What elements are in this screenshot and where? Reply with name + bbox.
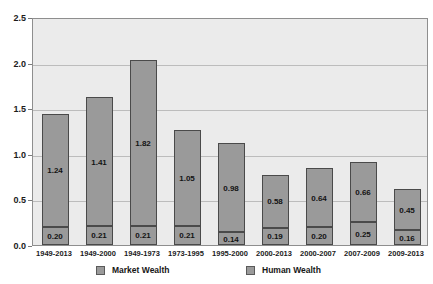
bar-segment-market-wealth: 0.19 [262, 228, 289, 245]
bar-segment-human-wealth: 0.45 [394, 189, 421, 230]
bar-group: 0.140.98 [218, 143, 245, 245]
bar-segment-human-wealth: 0.66 [350, 162, 377, 222]
bar-segment-human-wealth: 1.82 [130, 60, 157, 226]
bar-segment-human-wealth: 0.58 [262, 175, 289, 228]
plot-area: 0.201.240.211.410.211.820.211.050.140.98… [32, 18, 428, 246]
bar-value-label: 1.41 [87, 159, 112, 167]
bar-segment-market-wealth: 0.21 [174, 226, 201, 245]
bar-segment-market-wealth: 0.16 [394, 230, 421, 245]
legend-entry: Human Wealth [246, 264, 321, 277]
bar-value-label: 0.98 [219, 185, 244, 193]
y-axis-tick-label: 2.0 [13, 60, 26, 69]
y-axis-tick-label: 1.5 [13, 105, 26, 114]
bar-value-label: 0.58 [263, 198, 288, 206]
y-axis-tick-label: 1.0 [13, 151, 26, 160]
bar-value-label: 0.20 [43, 233, 68, 241]
bar-value-label: 1.82 [131, 140, 156, 148]
x-axis-tick-label: 2000-2007 [296, 249, 340, 258]
x-axis-tick-label: 1949-2000 [76, 249, 120, 258]
bar-group: 0.201.24 [42, 114, 69, 245]
bar-segment-market-wealth: 0.14 [218, 232, 245, 245]
bar-value-label: 1.24 [43, 167, 68, 175]
bar-value-label: 0.20 [307, 233, 332, 241]
y-axis-tick-label: 0.5 [13, 196, 26, 205]
legend-label: Market Wealth [112, 266, 169, 275]
bar-segment-human-wealth: 1.41 [86, 97, 113, 226]
bar-group: 0.190.58 [262, 175, 289, 245]
y-axis-tick-label: 2.5 [13, 14, 26, 23]
legend-swatch-icon [246, 266, 255, 275]
y-axis-tick-mark [28, 246, 32, 247]
x-axis: 1949-20131949-20001949-19731973-19951995… [32, 249, 428, 263]
x-axis-tick-label: 2000-2013 [252, 249, 296, 258]
x-axis-tick-label: 2007-2009 [340, 249, 384, 258]
bar-value-label: 1.05 [175, 175, 200, 183]
bar-segment-market-wealth: 0.21 [86, 226, 113, 245]
x-axis-tick-label: 1949-1973 [120, 249, 164, 258]
bar-segment-human-wealth: 0.98 [218, 143, 245, 232]
bar-segment-market-wealth: 0.20 [42, 227, 69, 245]
x-axis-tick-label: 1949-2013 [32, 249, 76, 258]
bar-value-label: 0.45 [395, 207, 420, 215]
bar-segment-human-wealth: 1.24 [42, 114, 69, 227]
stacked-bar-chart: 0.00.51.01.52.02.5 0.201.240.211.410.211… [0, 0, 433, 284]
legend-label: Human Wealth [262, 266, 321, 275]
bar-value-label: 0.64 [307, 195, 332, 203]
bar-segment-human-wealth: 0.64 [306, 168, 333, 226]
bar-value-label: 0.21 [175, 232, 200, 240]
bar-value-label: 0.14 [219, 236, 244, 244]
bar-value-label: 0.66 [351, 189, 376, 197]
bar-value-label: 0.25 [351, 231, 376, 239]
bar-value-label: 0.19 [263, 233, 288, 241]
bar-value-label: 0.21 [131, 232, 156, 240]
bar-value-label: 0.21 [87, 232, 112, 240]
x-axis-tick-label: 1995-2000 [208, 249, 252, 258]
y-axis-tick-label: 0.0 [13, 242, 26, 251]
legend-entry: Market Wealth [96, 264, 169, 277]
bar-group: 0.250.66 [350, 162, 377, 245]
bar-group: 0.200.64 [306, 168, 333, 245]
x-axis-tick-label: 2009-2013 [384, 249, 428, 258]
legend-swatch-icon [96, 266, 105, 275]
bar-segment-human-wealth: 1.05 [174, 130, 201, 226]
bar-segment-market-wealth: 0.21 [130, 226, 157, 245]
bar-segment-market-wealth: 0.25 [350, 222, 377, 245]
chart-legend: Market WealthHuman Wealth [32, 264, 428, 280]
bars-layer: 0.201.240.211.410.211.820.211.050.140.98… [33, 19, 427, 245]
bar-group: 0.211.05 [174, 130, 201, 245]
bar-value-label: 0.16 [395, 235, 420, 243]
bar-group: 0.211.41 [86, 97, 113, 245]
y-axis: 0.00.51.01.52.02.5 [0, 0, 30, 250]
x-axis-tick-label: 1973-1995 [164, 249, 208, 258]
bar-group: 0.211.82 [130, 60, 157, 245]
bar-group: 0.160.45 [394, 189, 421, 245]
bar-segment-market-wealth: 0.20 [306, 227, 333, 245]
